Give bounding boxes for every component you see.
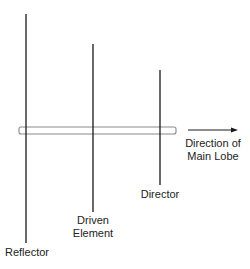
direction-label: Direction of Main Lobe	[183, 137, 243, 163]
director-label: Director	[136, 188, 184, 201]
antenna-diagram	[0, 0, 250, 269]
direction-label-line1: Direction of	[183, 137, 243, 150]
driven-label-line1: Driven	[68, 214, 118, 227]
reflector-label: Reflector	[0, 246, 54, 259]
driven-label-line2: Element	[68, 227, 118, 240]
boom	[19, 127, 176, 134]
driven-element-label: Driven Element	[68, 214, 118, 240]
arrowhead-icon	[231, 128, 238, 133]
direction-label-line2: Main Lobe	[183, 150, 243, 163]
